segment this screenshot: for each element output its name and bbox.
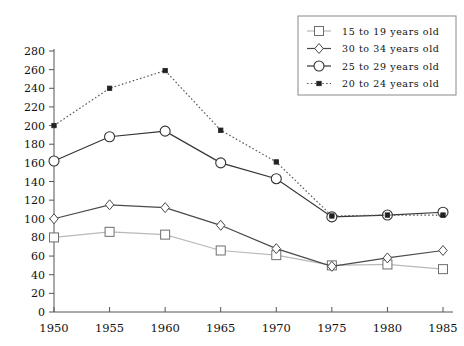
data-point-marker-3-4	[274, 160, 278, 164]
data-point-marker-1-2	[161, 203, 169, 213]
data-point-marker-0-1	[105, 227, 114, 236]
chart-legend: 15 to 19 years old30 to 34 years old25 t…	[298, 16, 456, 95]
data-point-marker-0-2	[161, 230, 170, 239]
data-point-marker-legend-2	[314, 61, 324, 71]
legend-entry-label-1: 30 to 34 years old	[342, 43, 440, 54]
y-tick-label: 280	[24, 45, 45, 58]
data-series-group	[49, 68, 448, 273]
data-point-marker-legend-0	[315, 27, 324, 36]
x-tick-label: 1980	[373, 321, 402, 335]
data-point-marker-3-6	[385, 213, 389, 217]
x-tick-label: 1955	[95, 321, 124, 335]
y-tick-label: 120	[24, 194, 45, 207]
series-0	[50, 227, 448, 273]
data-point-marker-3-1	[107, 86, 111, 90]
data-point-marker-0-7	[439, 265, 448, 274]
data-point-marker-2-4	[271, 174, 281, 184]
x-tick-label: 1960	[151, 321, 180, 335]
data-point-marker-3-5	[330, 214, 334, 218]
x-tick-label: 1965	[206, 321, 235, 335]
y-tick-label: 160	[24, 157, 45, 170]
data-point-marker-3-7	[441, 213, 445, 217]
data-point-marker-1-7	[439, 245, 447, 255]
x-axis-ticks: 19501955196019651970197519801985	[39, 307, 457, 335]
data-point-marker-3-2	[163, 68, 167, 72]
x-tick-label: 1950	[39, 321, 68, 335]
data-point-marker-1-3	[217, 220, 225, 230]
y-tick-label: 20	[31, 287, 45, 300]
y-tick-label: 260	[24, 64, 45, 77]
legend-entry-label-2: 25 to 29 years old	[342, 61, 440, 72]
y-axis-ticks: 020406080100120140160180200220240260280	[24, 45, 54, 319]
chart-canvas: 020406080100120140160180200220240260280 …	[0, 0, 464, 346]
data-point-marker-0-0	[50, 233, 59, 242]
data-point-marker-2-3	[216, 158, 226, 168]
y-tick-label: 0	[38, 306, 45, 319]
data-point-marker-legend-3	[317, 81, 321, 85]
y-tick-label: 60	[31, 250, 45, 263]
data-point-marker-3-0	[52, 123, 56, 127]
line-chart: 020406080100120140160180200220240260280 …	[0, 0, 464, 346]
y-tick-label: 100	[24, 213, 45, 226]
data-point-marker-0-3	[216, 246, 225, 255]
x-tick-label: 1975	[317, 321, 346, 335]
y-tick-label: 80	[31, 231, 45, 244]
x-tick-label: 1970	[262, 321, 291, 335]
data-point-marker-3-3	[219, 128, 223, 132]
data-point-marker-2-1	[105, 132, 115, 142]
y-tick-label: 180	[24, 138, 45, 151]
data-point-marker-2-0	[49, 156, 59, 166]
y-tick-label: 140	[24, 176, 45, 189]
data-point-marker-1-1	[105, 200, 113, 210]
legend-entry-label-0: 15 to 19 years old	[342, 26, 440, 37]
data-point-marker-1-0	[50, 214, 58, 224]
data-point-marker-2-2	[160, 126, 170, 136]
y-tick-label: 220	[24, 101, 45, 114]
x-tick-label: 1985	[428, 321, 457, 335]
y-tick-label: 40	[31, 269, 45, 282]
y-tick-label: 240	[24, 82, 45, 95]
legend-entry-label-3: 20 to 24 years old	[342, 78, 440, 89]
y-tick-label: 200	[24, 120, 45, 133]
